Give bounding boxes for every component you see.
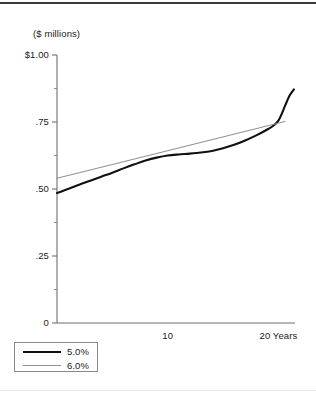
legend: 5.0% 6.0% xyxy=(14,342,98,372)
y-tick-label-4: 0 xyxy=(44,317,49,328)
legend-swatch-line-0 xyxy=(23,351,61,353)
y-axis-major-ticks xyxy=(52,55,57,323)
y-tick-label-0: $1.00 xyxy=(25,49,49,60)
chart-page: ($ millions) $1.00.75.50.250 1020 Years … xyxy=(0,0,316,397)
series-line-0 xyxy=(57,89,294,193)
axes-group xyxy=(57,55,295,323)
y-tick-label-1: .75 xyxy=(35,116,49,127)
data-series-group xyxy=(57,89,294,193)
x-tick-label-0: 10 xyxy=(162,330,173,341)
legend-swatch-line-1 xyxy=(23,365,61,366)
y-tick-label-2: .50 xyxy=(35,183,49,194)
legend-item-1: 6.0% xyxy=(15,358,99,373)
bottom-divider xyxy=(0,390,316,391)
legend-label-1: 6.0% xyxy=(67,360,89,371)
y-tick-label-3: .25 xyxy=(35,250,49,261)
legend-item-0: 5.0% xyxy=(15,344,99,359)
x-tick-label-1: 20 Years xyxy=(260,330,298,341)
series-line-1 xyxy=(57,121,285,178)
legend-label-0: 5.0% xyxy=(67,346,89,357)
